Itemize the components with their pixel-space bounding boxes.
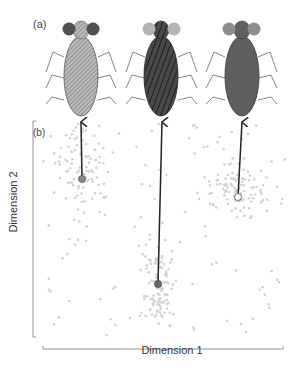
insect-body-icon: [225, 36, 259, 116]
scatter-points: [42, 123, 286, 337]
eye-icon: [168, 23, 181, 36]
eye-icon: [248, 23, 261, 36]
cluster-center-2-icon: [155, 281, 162, 288]
arrow-2-icon: [158, 122, 162, 284]
insect-3: [206, 21, 277, 116]
cluster-center-1-icon: [79, 176, 86, 183]
eye-icon: [87, 23, 100, 36]
arrows: [81, 122, 242, 284]
panel-label-a: (a): [33, 18, 46, 30]
panel-label-b: (b): [33, 127, 45, 138]
insect-body-icon: [144, 36, 178, 116]
cluster-center-3-icon: [235, 194, 242, 201]
y-axis-label: Dimension 2: [7, 171, 19, 232]
axes: [33, 121, 283, 349]
insect-2: [126, 21, 197, 116]
figure-canvas: [0, 0, 300, 376]
y-axis-bracket: [33, 121, 36, 337]
insect-body-icon: [64, 36, 98, 116]
arrow-1-icon: [81, 122, 82, 178]
insect-1: [46, 21, 116, 116]
eye-icon: [223, 23, 236, 36]
eye-icon: [63, 23, 76, 36]
x-axis-label: Dimension 1: [22, 344, 300, 356]
eye-icon: [143, 23, 156, 36]
